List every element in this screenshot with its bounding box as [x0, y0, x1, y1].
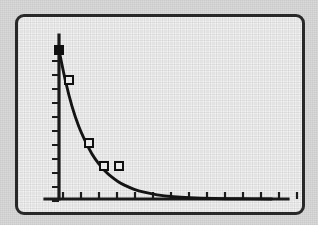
data-marker-open — [100, 162, 108, 170]
data-marker-open — [115, 162, 123, 170]
figure-frame — [15, 14, 305, 215]
screenshot-root — [0, 0, 318, 225]
data-marker-filled — [55, 46, 63, 54]
axes-group — [45, 35, 288, 199]
data-marker-open — [85, 139, 93, 147]
fit-curve — [59, 50, 272, 199]
exponential-decay-plot — [18, 17, 302, 212]
data-marker-open — [65, 76, 73, 84]
